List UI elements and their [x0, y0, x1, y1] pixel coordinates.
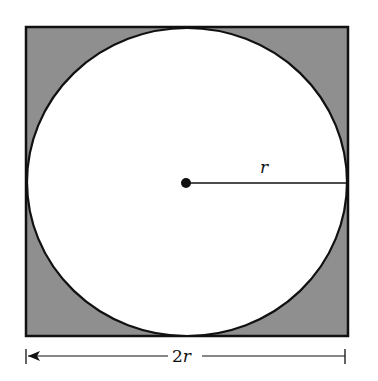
radius-label: r — [260, 157, 269, 177]
inscribed-circle-diagram: r 2r — [0, 0, 378, 381]
width-label: 2r — [172, 346, 192, 366]
